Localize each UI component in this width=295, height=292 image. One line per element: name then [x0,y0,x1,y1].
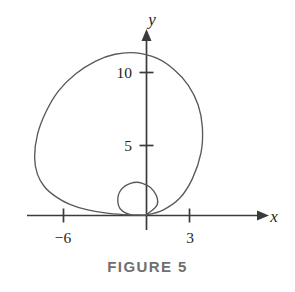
x-axis-label: x [269,207,278,226]
plot-area: −6 3 5 10 x y [0,0,295,292]
y-axis-arrowhead [142,29,152,41]
y-axis [142,29,152,230]
x-axis-arrowhead [257,211,269,221]
y-axis-label: y [146,10,156,29]
figure-caption: FIGURE 5 [0,258,295,275]
figure-container: −6 3 5 10 x y FIGURE 5 [0,0,295,292]
y-tick-label-10: 10 [117,64,133,81]
x-tick-label-3: 3 [186,229,194,246]
y-tick-label-5: 5 [124,137,132,154]
x-tick-label-neg6: −6 [55,229,72,246]
